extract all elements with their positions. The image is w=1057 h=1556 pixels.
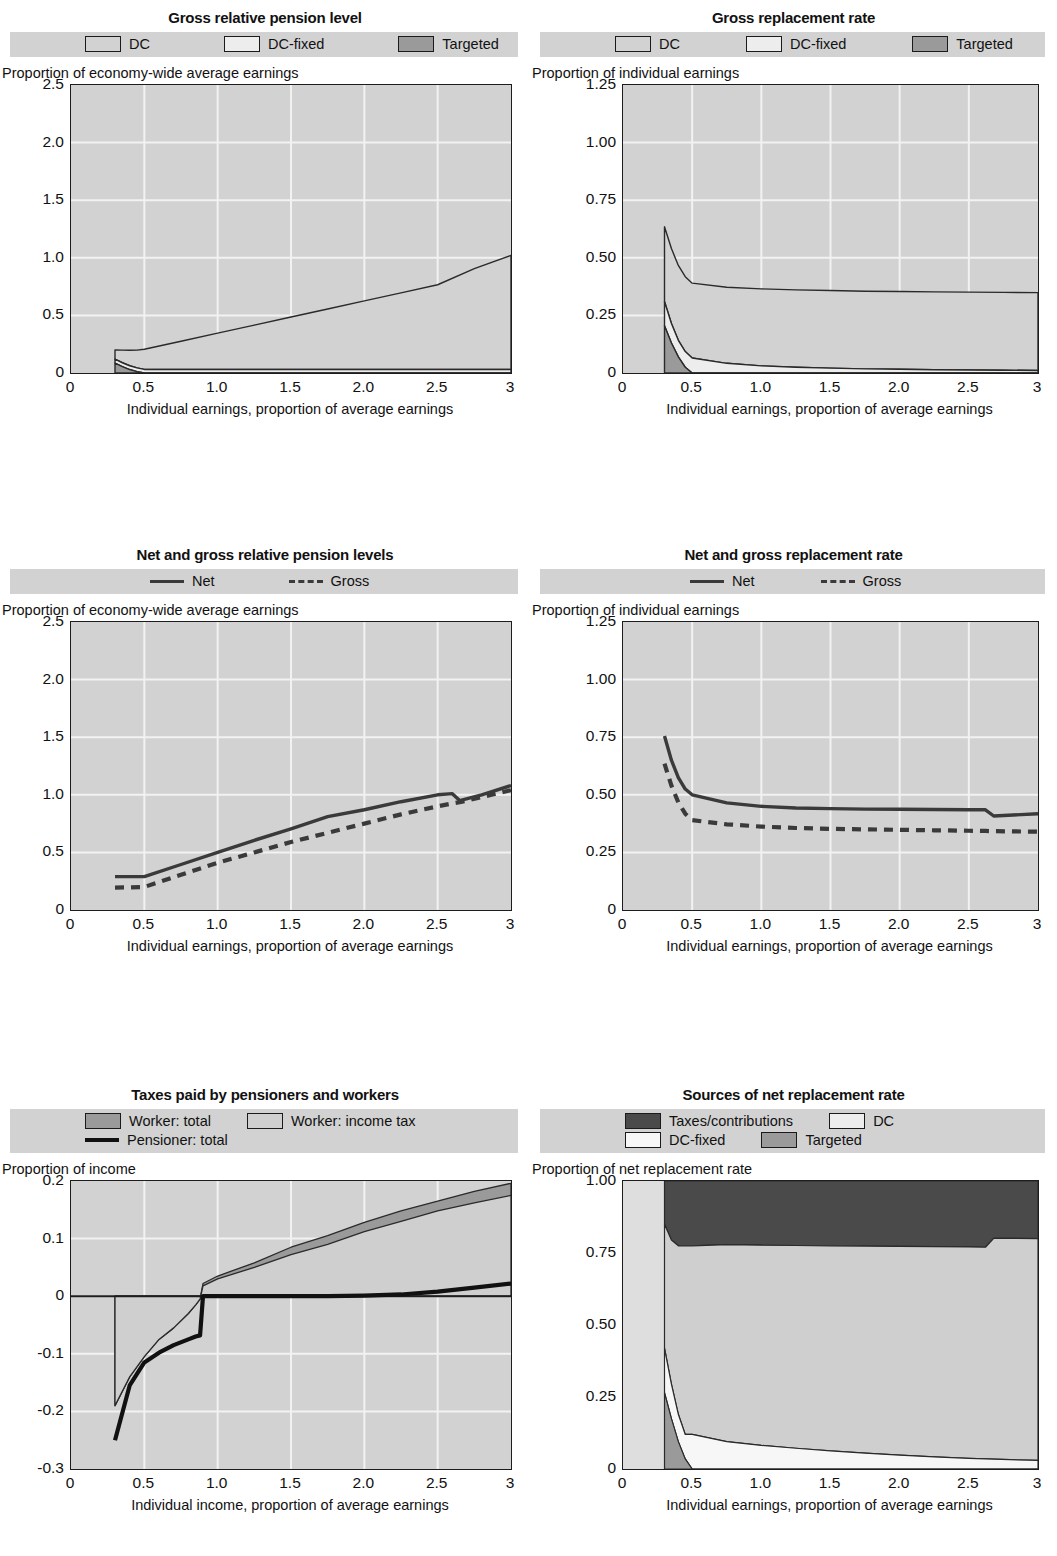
legend-label: Taxes/contributions: [669, 1113, 793, 1129]
legend-label: Net: [732, 573, 755, 589]
x-axis-caption: Individual income, proportion of average…: [70, 1497, 510, 1513]
color-swatch-icon: [615, 36, 651, 52]
legend-row: DCDC-fixedTargeted: [615, 36, 1045, 52]
legend-label: Targeted: [956, 36, 1012, 52]
legend-label: DC: [129, 36, 150, 52]
color-swatch-icon: [912, 36, 948, 52]
plot-box: [70, 84, 512, 374]
x-tick-label: 2.0: [888, 915, 910, 933]
legend-item-pensioner-total: Pensioner: total: [85, 1132, 228, 1148]
panel-title: Gross replacement rate: [530, 8, 1057, 27]
y-tick-label: 2.0: [42, 133, 64, 151]
plot-area: 00.250.500.751.0000.51.01.52.02.53Indivi…: [530, 1180, 1057, 1520]
y-tick-label: 0.25: [586, 1387, 616, 1405]
y-axis-caption: Proportion of income: [2, 1160, 530, 1178]
y-tick-label: 2.5: [42, 75, 64, 93]
legend-label: Gross: [863, 573, 902, 589]
y-tick-label: 0: [607, 363, 616, 381]
x-tick-label: 3: [1033, 1474, 1042, 1492]
legend-item-targeted: Targeted: [912, 36, 1012, 52]
plot-box: [70, 1180, 512, 1470]
legend-row: Taxes/contributionsDC: [625, 1113, 1045, 1129]
color-swatch-icon: [398, 36, 434, 52]
legend-row: Worker: totalWorker: income tax: [85, 1113, 518, 1129]
x-tick-label: 2.5: [957, 915, 979, 933]
y-tick-label: -0.2: [37, 1401, 64, 1419]
x-tick-label: 2.5: [426, 1474, 448, 1492]
plot-area: 00.250.500.751.001.2500.51.01.52.02.53In…: [530, 621, 1057, 961]
legend-item-dc-fixed: DC-fixed: [746, 36, 846, 52]
x-tick-label: 2.0: [353, 915, 375, 933]
x-axis-caption: Individual earnings, proportion of avera…: [622, 401, 1037, 417]
legend-item-worker-income-tax: Worker: income tax: [247, 1113, 416, 1129]
x-tick-labels: 00.51.01.52.02.53: [622, 915, 1037, 937]
legend-item-gross: Gross: [821, 573, 902, 589]
x-tick-label: 3: [1033, 378, 1042, 396]
color-swatch-icon: [625, 1132, 661, 1148]
y-tick-label: 0.50: [586, 1315, 616, 1333]
x-tick-label: 2.0: [888, 1474, 910, 1492]
y-tick-label: 0: [55, 900, 64, 918]
panel-title: Net and gross relative pension levels: [0, 545, 530, 564]
legend: NetGross: [540, 569, 1045, 594]
x-tick-label: 1.0: [206, 915, 228, 933]
legend-label: Gross: [331, 573, 370, 589]
panel-gross-relative-pension-level: Gross relative pension levelDCDC-fixedTa…: [0, 8, 530, 424]
legend-item-dc: DC: [85, 36, 150, 52]
x-tick-label: 1.0: [206, 378, 228, 396]
legend: Taxes/contributionsDCDC-fixedTargeted: [540, 1109, 1045, 1153]
x-tick-label: 0: [618, 378, 627, 396]
legend-label: Net: [192, 573, 215, 589]
y-tick-label: -0.1: [37, 1344, 64, 1362]
legend: DCDC-fixedTargeted: [540, 32, 1045, 57]
x-axis-caption: Individual earnings, proportion of avera…: [622, 1497, 1037, 1513]
y-tick-label: 0.25: [586, 305, 616, 323]
y-tick-label: 2.0: [42, 670, 64, 688]
plot-box: [622, 1180, 1039, 1470]
legend-label: Targeted: [442, 36, 498, 52]
thick-line-icon: [85, 1138, 119, 1142]
y-tick-label: 0.50: [586, 248, 616, 266]
color-swatch-icon: [247, 1113, 283, 1129]
legend-label: DC-fixed: [268, 36, 324, 52]
x-tick-label: 0: [618, 1474, 627, 1492]
legend-label: DC: [659, 36, 680, 52]
y-tick-label: 0.5: [42, 842, 64, 860]
x-axis-caption: Individual earnings, proportion of avera…: [622, 938, 1037, 954]
y-tick-label: 0.50: [586, 785, 616, 803]
y-tick-label: -0.3: [37, 1459, 64, 1477]
x-tick-label: 1.0: [750, 1474, 772, 1492]
x-tick-label: 1.5: [819, 1474, 841, 1492]
plot-box: [622, 621, 1039, 911]
y-tick-label: 1.00: [586, 133, 616, 151]
legend-label: DC-fixed: [790, 36, 846, 52]
panel-net-and-gross-relative-pension-levels: Net and gross relative pension levelsNet…: [0, 545, 530, 961]
color-swatch-icon: [829, 1113, 865, 1129]
x-tick-label: 2.5: [957, 378, 979, 396]
x-tick-label: 3: [1033, 915, 1042, 933]
color-swatch-icon: [761, 1132, 797, 1148]
plot-area: -0.3-0.2-0.100.10.200.51.01.52.02.53Indi…: [0, 1180, 530, 1520]
y-tick-label: 0: [607, 900, 616, 918]
x-tick-label: 0.5: [680, 915, 702, 933]
x-tick-label: 1.0: [206, 1474, 228, 1492]
legend-item-dc-fixed: DC-fixed: [625, 1132, 725, 1148]
legend: Worker: totalWorker: income taxPensioner…: [10, 1109, 518, 1153]
x-tick-labels: 00.51.01.52.02.53: [622, 378, 1037, 400]
legend: DCDC-fixedTargeted: [10, 32, 518, 57]
x-tick-label: 2.5: [426, 915, 448, 933]
y-tick-label: 2.5: [42, 612, 64, 630]
y-tick-label: 0: [55, 1286, 64, 1304]
y-tick-label: 0.25: [586, 842, 616, 860]
legend-row: DC-fixedTargeted: [625, 1132, 1045, 1148]
x-tick-labels: 00.51.01.52.02.53: [70, 1474, 510, 1496]
legend-item-targeted: Targeted: [398, 36, 498, 52]
legend-label: Pensioner: total: [127, 1132, 228, 1148]
legend-item-net: Net: [690, 573, 755, 589]
x-tick-label: 0.5: [680, 378, 702, 396]
solid-line-icon: [690, 580, 724, 583]
legend-label: Worker: total: [129, 1113, 211, 1129]
plot-area: 00.250.500.751.001.2500.51.01.52.02.53In…: [530, 84, 1057, 424]
legend-item-taxes-contributions: Taxes/contributions: [625, 1113, 793, 1129]
dashed-line-icon: [821, 580, 855, 583]
